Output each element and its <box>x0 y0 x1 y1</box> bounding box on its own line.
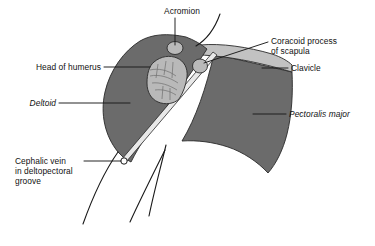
shoulder-mass <box>103 35 292 173</box>
cephalic-vein-marker <box>121 158 127 164</box>
medial-arm-contour <box>130 150 165 222</box>
label-pectoralis-major: Pectoralis major <box>289 109 375 119</box>
neck-contour <box>196 14 220 46</box>
label-coracoid-process-line1: Coracoid process <box>271 36 375 46</box>
label-cephalic-vein-line2: in deltopectoral <box>15 166 105 176</box>
label-coracoid-process-line2: of scapula <box>271 46 375 56</box>
label-acromion: Acromion <box>152 6 212 16</box>
label-cephalic-vein-line3: groove <box>15 176 75 186</box>
label-clavicle: Clavicle <box>291 63 371 73</box>
label-deltoid: Deltoid <box>6 98 56 108</box>
label-cephalic-vein-line1: Cephalic vein <box>15 156 95 166</box>
axillary-fold-contour <box>149 145 166 216</box>
anatomy-figure: Acromion Coracoid process of scapula Cla… <box>0 0 375 246</box>
coracoid-process-bone <box>193 59 208 73</box>
label-head-of-humerus: Head of humerus <box>6 62 101 72</box>
